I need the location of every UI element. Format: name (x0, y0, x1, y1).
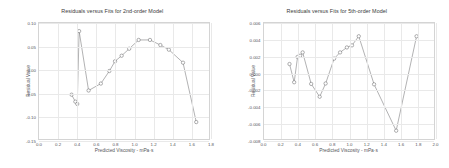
data-point-marker (167, 48, 170, 51)
gridline-horizontal (39, 94, 209, 95)
x-tick-label: 0.0 (36, 142, 42, 147)
y-tick-label: 0.002 (250, 54, 261, 59)
data-point-marker (350, 44, 353, 47)
gridline-horizontal (39, 23, 209, 24)
data-point-marker (323, 82, 326, 85)
gridline-vertical (154, 23, 155, 139)
x-tick-label: 1.8 (208, 142, 214, 147)
gridline-horizontal (264, 107, 434, 108)
x-tick-label: 1.4 (170, 142, 176, 147)
gridline-horizontal (264, 90, 434, 91)
gridline-vertical (192, 23, 193, 139)
data-point-marker (87, 89, 90, 92)
gridline-horizontal (264, 57, 434, 58)
gridline-vertical (135, 23, 136, 139)
x-axis-label: Predicted Viscosity - mPa·s (39, 148, 209, 153)
x-tick-label: 0.6 (93, 142, 99, 147)
chart-panel-5th-order: Residuals versus Fits for 5th-order Mode… (225, 0, 449, 168)
x-tick-label: 0.2 (55, 142, 61, 147)
x-tick-label: 0.4 (74, 142, 80, 147)
plot-area: Residual Value Predicted Viscosity - mPa… (38, 22, 210, 140)
y-tick-label: -0.006 (248, 122, 260, 127)
data-point-marker (414, 35, 417, 38)
gridline-horizontal (264, 23, 434, 24)
gridline-horizontal (39, 117, 209, 118)
data-point-marker (345, 46, 348, 49)
data-point-marker (338, 51, 341, 54)
gridline-horizontal (39, 141, 209, 142)
data-point-marker (137, 38, 140, 41)
x-axis-label: Predicted Viscosity - mPa·s (264, 148, 434, 153)
y-tick-label: -0.002 (248, 88, 260, 93)
gridline-horizontal (39, 47, 209, 48)
y-tick-label: -0.004 (248, 105, 260, 110)
x-tick-label: 0.8 (329, 142, 335, 147)
data-point-marker (99, 82, 102, 85)
chart-title: Residuals versus Fits for 2nd-order Mode… (0, 8, 225, 14)
x-tick-label: 0.0 (260, 142, 266, 147)
data-point-marker (77, 29, 80, 32)
gridline-horizontal (39, 70, 209, 71)
x-tick-label: 2.0 (432, 142, 438, 147)
y-tick-label: -0.05 (26, 91, 36, 96)
x-tick-label: 0.6 (312, 142, 318, 147)
data-point-marker (292, 81, 295, 84)
data-point-marker (394, 129, 397, 132)
y-tick-label: -0.10 (26, 115, 36, 120)
x-tick-label: 1.0 (346, 142, 352, 147)
x-tick-label: 0.4 (295, 142, 301, 147)
y-tick-label: 0.10 (27, 21, 36, 26)
chart-panel-2nd-order: Residuals versus Fits for 2nd-order Mode… (0, 0, 225, 168)
x-tick-label: 1.6 (189, 142, 195, 147)
x-tick-label: 0.2 (278, 142, 284, 147)
gridline-horizontal (264, 141, 434, 142)
x-tick-label: 1.2 (364, 142, 370, 147)
data-point-marker (372, 83, 375, 86)
data-point-marker (309, 82, 312, 85)
x-tick-label: 1.0 (131, 142, 137, 147)
gridline-vertical (115, 23, 116, 139)
y-tick-label: 0.006 (250, 21, 261, 26)
gridline-horizontal (264, 124, 434, 125)
chart-title: Residuals versus Fits for 5th-order Mode… (225, 8, 449, 14)
x-tick-label: 1.6 (398, 142, 404, 147)
gridline-horizontal (264, 40, 434, 41)
data-point-marker (300, 51, 303, 54)
data-point-marker (120, 54, 123, 57)
x-tick-label: 1.2 (151, 142, 157, 147)
x-tick-label: 1.8 (415, 142, 421, 147)
series-residuals-2nd-order (39, 23, 209, 139)
gridline-horizontal (264, 74, 434, 75)
x-tick-label: 0.8 (112, 142, 118, 147)
data-point-marker (317, 95, 320, 98)
series-polyline (289, 36, 416, 130)
gridline-vertical (211, 23, 212, 139)
y-tick-label: 0.004 (250, 37, 261, 42)
gridline-vertical (58, 23, 59, 139)
data-point-marker (128, 47, 131, 50)
gridline-vertical (436, 23, 437, 139)
x-tick-label: 1.4 (381, 142, 387, 147)
residual-plots-figure: Residuals versus Fits for 2nd-order Mode… (0, 0, 449, 168)
y-tick-label: 0.05 (27, 44, 36, 49)
data-point-marker (181, 61, 184, 64)
y-tick-label: -0.15 (26, 139, 36, 144)
gridline-vertical (77, 23, 78, 139)
data-point-marker (195, 120, 198, 123)
y-tick-label: 0.000 (250, 71, 261, 76)
plot-area: Residual Value Predicted Viscosity - mPa… (263, 22, 435, 140)
y-tick-label: -0.008 (248, 139, 260, 144)
data-point-marker (357, 35, 360, 38)
data-point-marker (148, 38, 151, 41)
gridline-vertical (173, 23, 174, 139)
y-tick-label: 0.00 (27, 68, 36, 73)
gridline-vertical (96, 23, 97, 139)
data-point-marker (287, 62, 290, 65)
